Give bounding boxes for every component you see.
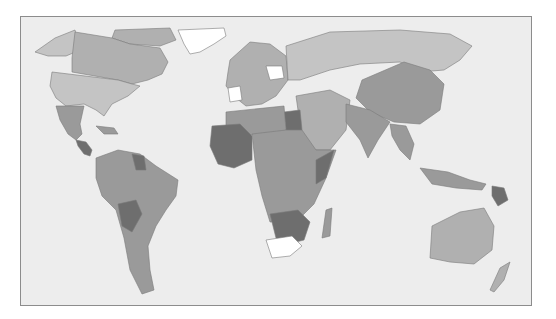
region-southeast-asia — [390, 124, 414, 160]
region-iberia — [228, 86, 242, 102]
world-map — [0, 0, 556, 319]
region-west-africa — [210, 124, 252, 168]
region-madagascar — [322, 208, 332, 238]
region-mexico — [56, 106, 84, 140]
region-indonesia — [420, 168, 486, 190]
region-new-zealand — [490, 262, 510, 292]
region-greenland — [178, 28, 226, 54]
region-png — [492, 186, 508, 206]
region-caribbean — [96, 126, 118, 134]
region-egypt — [284, 110, 302, 130]
region-central-america — [76, 140, 92, 156]
region-australia — [430, 208, 494, 264]
